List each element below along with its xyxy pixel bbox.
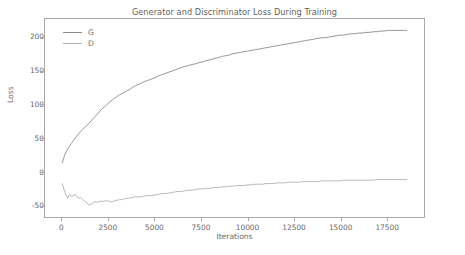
x-tick-label: 0 <box>41 223 81 232</box>
x-tick-mark <box>154 218 155 221</box>
x-tick-mark <box>294 218 295 221</box>
y-tick-label: 50 <box>10 134 44 143</box>
x-tick-label: 5000 <box>134 223 174 232</box>
legend-item-g: G <box>63 27 94 38</box>
plot-lines <box>45 19 424 217</box>
x-tick-mark <box>61 218 62 221</box>
legend-label-g: G <box>88 28 94 37</box>
x-tick-label: 15000 <box>321 223 361 232</box>
y-tick-label: 100 <box>10 100 44 109</box>
y-tick-label: 200 <box>10 32 44 41</box>
x-tick-mark <box>201 218 202 221</box>
plot-area: G D <box>44 18 425 218</box>
x-tick-mark <box>341 218 342 221</box>
y-tick-label: -50 <box>10 201 44 210</box>
series-line-d <box>62 180 407 205</box>
x-tick-mark <box>248 218 249 221</box>
x-axis-ticks: 025005000750010000125001500017500 <box>44 218 425 236</box>
chart-legend: G D <box>59 25 99 52</box>
x-tick-label: 10000 <box>228 223 268 232</box>
chart-title: Generator and Discriminator Loss During … <box>44 7 425 17</box>
y-tick-label: 0 <box>10 168 44 177</box>
x-tick-label: 7500 <box>181 223 221 232</box>
legend-swatch-g <box>63 32 82 33</box>
x-tick-mark <box>387 218 388 221</box>
y-tick-label: 150 <box>10 66 44 75</box>
x-tick-label: 2500 <box>88 223 128 232</box>
x-tick-label: 12500 <box>274 223 314 232</box>
x-tick-mark <box>108 218 109 221</box>
series-line-g <box>62 30 407 162</box>
x-tick-label: 17500 <box>367 223 407 232</box>
y-axis-ticks: -50050100150200 <box>0 18 44 218</box>
legend-label-d: D <box>88 39 94 48</box>
legend-swatch-d <box>63 43 82 44</box>
figure-canvas: Generator and Discriminator Loss During … <box>0 0 465 255</box>
legend-item-d: D <box>63 38 94 49</box>
